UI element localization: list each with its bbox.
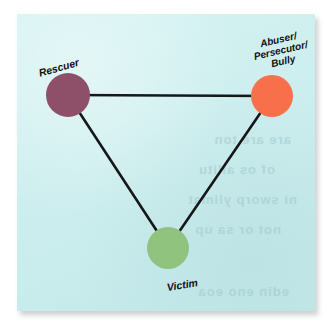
node-group (46, 73, 293, 269)
node-circle-abuser[interactable] (251, 75, 293, 117)
node-circle-rescuer[interactable] (46, 73, 90, 117)
diagram-scene: are are ton of os allitu ni sworp ylimat… (0, 0, 330, 332)
paper-sheet: are are ton of os allitu ni sworp ylimat… (17, 14, 315, 311)
edge-abuser-victim (168, 96, 272, 248)
edge-rescuer-abuser (68, 95, 272, 96)
edge-rescuer-victim (68, 95, 168, 248)
node-circle-victim[interactable] (147, 227, 189, 269)
edge-group (68, 95, 272, 248)
